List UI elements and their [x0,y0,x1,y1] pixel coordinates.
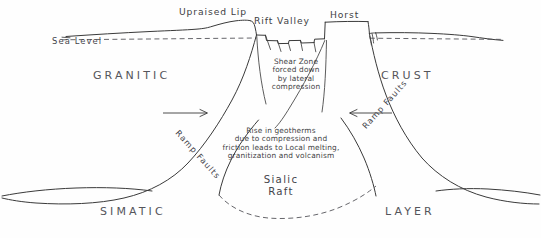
sea-level-label: Sea Level [52,36,102,46]
shear-zone-line-4: compression [259,83,333,91]
horst-top [325,21,368,22]
rift-block-step-4 [289,40,301,43]
rift-valley-label: Rift Valley [254,15,310,26]
simatic-top-left [2,188,152,196]
simatic-top-right [436,189,540,195]
horst-label: Horst [330,9,359,20]
rift-block-step-3 [278,41,289,44]
geotherm-line-4: granitization and volcanism [215,152,347,160]
horst-left-face [325,22,326,39]
geotherm-annotation: Rise in geotherms due to compression and… [215,127,347,161]
rift-fault-5 [314,43,316,52]
shear-zone-annotation: Shear Zone forced down by lateral compre… [259,58,333,92]
simatic-layer-label: SIMATIC [100,205,166,218]
sialic-raft-line-1: Sialic [245,174,317,186]
ramp-fault-curve-right [369,34,539,205]
horst-right-step-c [376,33,378,40]
geologic-cross-section-diagram: Sea Level Upraised Lip Rift Valley Horst… [0,0,541,238]
granitic-layer-label: GRANITIC [93,69,170,82]
crust-layer-label: CRUST [381,69,434,82]
sialic-raft-label: Sialic Raft [245,174,317,197]
rift-block-step-5 [301,40,315,43]
layer-label: LAYER [385,205,435,218]
ramp-fault-curve-left [2,35,257,204]
horst-right-face [368,22,369,34]
upraised-lip-label: Upraised Lip [179,6,247,17]
rift-fault-3 [289,43,291,50]
sialic-raft-line-2: Raft [245,186,317,198]
left-compression-arrow [163,110,208,117]
rift-block-step-6 [314,39,325,43]
surface-profile-left [66,20,250,36]
